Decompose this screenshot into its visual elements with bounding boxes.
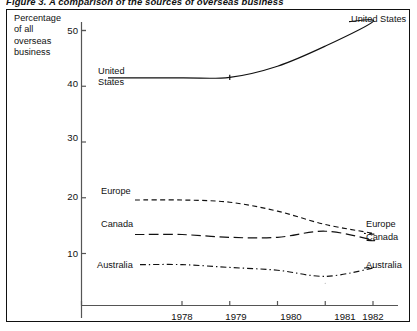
y-tick-label-50: 50 [52, 25, 78, 36]
series-label-europe-right: Europe [366, 219, 396, 230]
series-label-us-left-line2: States [98, 77, 124, 87]
y-tick-label-40: 40 [52, 78, 78, 89]
series-label-canada-right: Canada [366, 232, 398, 243]
x-tick-label-1980: 1980 [268, 311, 314, 322]
series-label-australia-right: Australia [366, 260, 402, 271]
series-label-united-states-left: United States [98, 66, 140, 87]
y-tick-label-30: 30 [52, 132, 78, 143]
y-axis-title-line-1: Percentage [14, 13, 76, 24]
figure-caption: Figure 3. A comparison of the sources of… [6, 0, 411, 9]
y-axis-title-line-4: business [14, 47, 76, 58]
y-tick-label-10: 10 [52, 248, 78, 259]
series-label-europe-left: Europe [101, 186, 131, 197]
series-label-australia-left: Australia [97, 260, 133, 271]
series-label-us-left-line1: United [98, 66, 125, 76]
y-tick-label-20: 20 [52, 191, 78, 202]
x-tick-label-1982: 1982 [350, 311, 396, 322]
y-axis-title-line-3: overseas [14, 36, 76, 47]
series-label-canada-left: Canada [101, 219, 133, 230]
series-label-united-states-right: United States [351, 14, 406, 25]
figure-root: Figure 3. A comparison of the sources of… [0, 0, 417, 331]
x-tick-label-1979: 1979 [213, 311, 259, 322]
x-tick-label-1978: 1978 [159, 311, 205, 322]
